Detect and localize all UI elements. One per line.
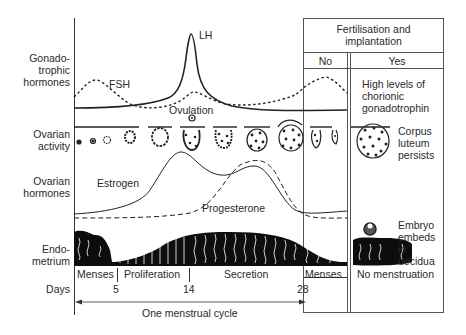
- row-label-line: Ovarian: [0, 128, 70, 140]
- ovulation-label: Ovulation: [169, 104, 213, 116]
- row-label-ovarian-hormones: Ovarian hormones: [0, 175, 70, 199]
- day-tick-28: 28: [297, 283, 309, 295]
- cycle-label: One menstrual cycle: [142, 307, 238, 319]
- day-tick-5: 5: [113, 283, 119, 295]
- row-label-line: Gonado-: [0, 52, 70, 64]
- phase-secretion: Secretion: [224, 268, 268, 280]
- row-label-line: hormones: [0, 76, 70, 88]
- column-yes: Yes: [351, 55, 443, 67]
- note-line: Embryo: [398, 219, 435, 231]
- note-line: gonadotrophin: [362, 102, 429, 114]
- embryo: [364, 223, 376, 235]
- yes-ovary-note: Corpus luteum persists: [398, 125, 434, 161]
- note-line: chorionic: [362, 90, 429, 102]
- lh-label: LH: [199, 29, 212, 41]
- row-label-line: Endo-: [0, 243, 70, 255]
- fertilisation-header: Fertilisation and implantation: [304, 23, 443, 47]
- header-line: implantation: [304, 35, 443, 47]
- ovarian-follicles: [77, 124, 389, 158]
- row-label-line: Ovarian: [0, 175, 70, 187]
- day-tick-14: 14: [183, 283, 195, 295]
- fsh-label: FSH: [109, 78, 130, 90]
- row-label-line: activity: [0, 140, 70, 152]
- note-line: decidua: [398, 255, 435, 267]
- yes-endometrium-note: Embryo embeds in decidua: [398, 219, 435, 267]
- note-line: High levels of: [362, 78, 429, 90]
- note-line: embeds: [398, 231, 435, 243]
- row-label-ovarian-activity: Ovarian activity: [0, 128, 70, 152]
- progesterone-label: Progesterone: [202, 202, 265, 214]
- column-no: No: [304, 55, 347, 67]
- phase-menses-no: Menses: [305, 268, 342, 280]
- row-label-line: trophic: [0, 64, 70, 76]
- note-line: luteum: [398, 137, 434, 149]
- phase-no-menstruation: No menstruation: [357, 268, 434, 280]
- row-label-days: Days: [0, 283, 70, 295]
- phase-menses: Menses: [77, 268, 114, 280]
- estrogen-label: Estrogen: [97, 177, 139, 189]
- row-label-line: metrium: [0, 255, 70, 267]
- yes-hormone-note: High levels of chorionic gonadotrophin: [362, 78, 429, 114]
- note-line: Corpus: [398, 125, 434, 137]
- note-line: persists: [398, 149, 434, 161]
- header-line: Fertilisation and: [304, 23, 443, 35]
- row-label-endometrium: Endo- metrium: [0, 243, 70, 267]
- note-line: in: [398, 243, 435, 255]
- row-label-line: hormones: [0, 187, 70, 199]
- phase-proliferation: Proliferation: [124, 268, 180, 280]
- row-label-gonadotrophic: Gonado- trophic hormones: [0, 52, 70, 88]
